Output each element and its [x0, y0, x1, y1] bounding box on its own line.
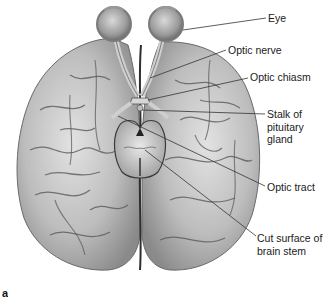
label-pituitary-line-3: gland: [267, 133, 304, 146]
label-pituitary-stalk: Stalk of pituitary gland: [267, 108, 304, 146]
label-pituitary-line-2: pituitary: [267, 121, 304, 134]
panel-letter: a: [2, 288, 8, 298]
brain-stem-cut-surface: [115, 121, 166, 179]
left-eye: [97, 7, 131, 41]
label-optic-chiasm: Optic chiasm: [250, 71, 311, 84]
leader-eye: [183, 18, 266, 30]
label-cut-surface-line-1: Cut surface of: [257, 232, 322, 245]
label-optic-tract: Optic tract: [267, 181, 315, 194]
label-pituitary-line-1: Stalk of: [267, 108, 304, 121]
label-eye: Eye: [268, 12, 286, 25]
right-eye: [149, 7, 183, 41]
label-cut-surface: Cut surface of brain stem: [257, 232, 322, 257]
label-optic-nerve: Optic nerve: [228, 44, 282, 57]
brain-ventral-view-figure: Eye Optic nerve Optic chiasm Stalk of pi…: [0, 0, 334, 298]
label-cut-surface-line-2: brain stem: [257, 245, 322, 258]
